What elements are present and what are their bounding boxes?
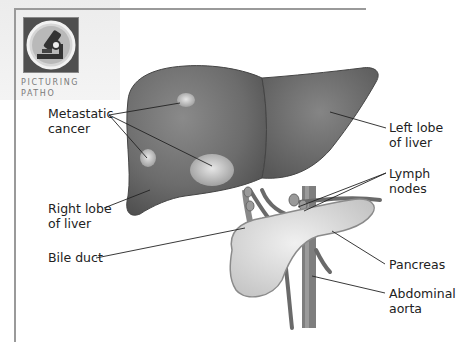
label-pancreas-line1: Pancreas <box>389 257 445 272</box>
label-bile-duct: Bile duct <box>48 250 103 265</box>
label-left-lobe-line1: Left lobe <box>389 120 443 135</box>
label-right-lobe-line1: Right lobe <box>48 201 112 216</box>
label-aorta-line1: Abdominal <box>389 286 456 301</box>
label-left-lobe-line2: of liver <box>389 135 443 150</box>
label-metastatic-line1: Metastatic <box>48 106 113 121</box>
label-metastatic-line2: cancer <box>48 121 113 136</box>
label-right-lobe-line2: of liver <box>48 216 112 231</box>
label-bile-duct-line1: Bile duct <box>48 250 103 265</box>
label-lymph-nodes-line1: Lymph <box>389 166 430 181</box>
liver-left-lobe <box>262 68 378 179</box>
label-metastatic-cancer: Metastatic cancer <box>48 106 113 136</box>
label-lymph-nodes-line2: nodes <box>389 181 430 196</box>
label-lymph-nodes: Lymph nodes <box>389 166 430 196</box>
label-left-lobe: Left lobe of liver <box>389 120 443 150</box>
label-abdominal-aorta: Abdominal aorta <box>389 286 456 316</box>
label-aorta-line2: aorta <box>389 301 456 316</box>
label-pancreas: Pancreas <box>389 257 445 272</box>
label-right-lobe: Right lobe of liver <box>48 201 112 231</box>
